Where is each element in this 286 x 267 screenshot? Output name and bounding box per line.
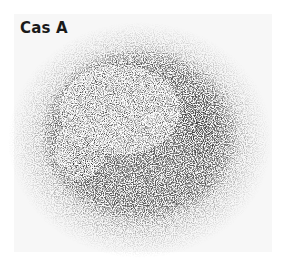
image-label: Cas A	[20, 19, 68, 37]
cas-a-nebula-image	[0, 0, 286, 267]
